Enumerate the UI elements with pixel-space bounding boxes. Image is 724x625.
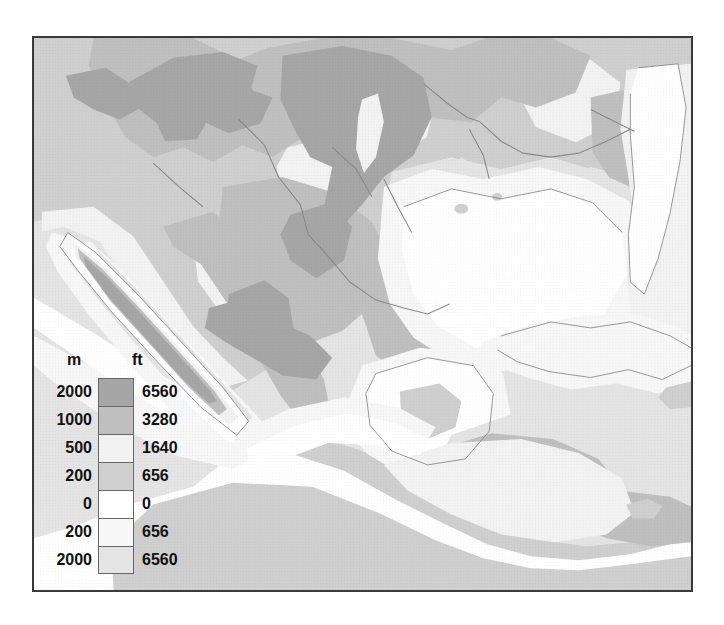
legend-row: 20006560 xyxy=(46,546,218,574)
legend-row: 20006560 xyxy=(46,378,218,406)
legend-row: 200656 xyxy=(46,462,218,490)
legend-meters-value: 200 xyxy=(46,518,92,546)
map-page: m ft 20006560100032805001640200656002006… xyxy=(0,0,724,625)
legend-feet-value: 3280 xyxy=(142,406,178,434)
legend-meters-value: 2000 xyxy=(46,378,92,406)
legend-row: 10003280 xyxy=(46,406,218,434)
legend-feet-value: 0 xyxy=(142,490,151,518)
legend-meters-value: 2000 xyxy=(46,546,92,574)
map-frame: m ft 20006560100032805001640200656002006… xyxy=(32,36,693,592)
legend-feet-value: 656 xyxy=(142,462,169,490)
legend-header-feet: ft xyxy=(132,350,172,370)
legend-feet-value: 6560 xyxy=(142,378,178,406)
legend-swatch-land-200-500m xyxy=(98,462,134,490)
legend-swatch-land-above-2000m xyxy=(98,378,134,406)
legend-swatch-land-0-200m xyxy=(98,490,134,518)
legend-meters-value: 0 xyxy=(46,490,92,518)
legend-rows: 2000656010003280500164020065600200656200… xyxy=(46,378,218,574)
legend-row: 200656 xyxy=(46,518,218,546)
legend-feet-value: 1640 xyxy=(142,434,178,462)
legend-swatch-land-500-1000m xyxy=(98,434,134,462)
elevation-legend: m ft 20006560100032805001640200656002006… xyxy=(46,350,218,578)
legend-feet-value: 656 xyxy=(142,518,169,546)
legend-row: 00 xyxy=(46,490,218,518)
legend-row: 5001640 xyxy=(46,434,218,462)
legend-header-meters: m xyxy=(52,350,96,370)
legend-swatch-sea-0-200m xyxy=(98,518,134,546)
legend-swatch-land-1000-2000m xyxy=(98,406,134,434)
legend-meters-value: 200 xyxy=(46,462,92,490)
legend-meters-value: 500 xyxy=(46,434,92,462)
legend-meters-value: 1000 xyxy=(46,406,92,434)
legend-swatch-sea-below-2000m xyxy=(98,546,134,574)
legend-feet-value: 6560 xyxy=(142,546,178,574)
